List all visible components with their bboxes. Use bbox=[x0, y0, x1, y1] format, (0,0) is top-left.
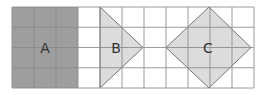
shape-a-label: A bbox=[40, 40, 50, 56]
shape-c-label: C bbox=[203, 40, 213, 56]
shape-area-diagram: A B C bbox=[0, 0, 262, 95]
shape-b-label: B bbox=[111, 40, 121, 56]
